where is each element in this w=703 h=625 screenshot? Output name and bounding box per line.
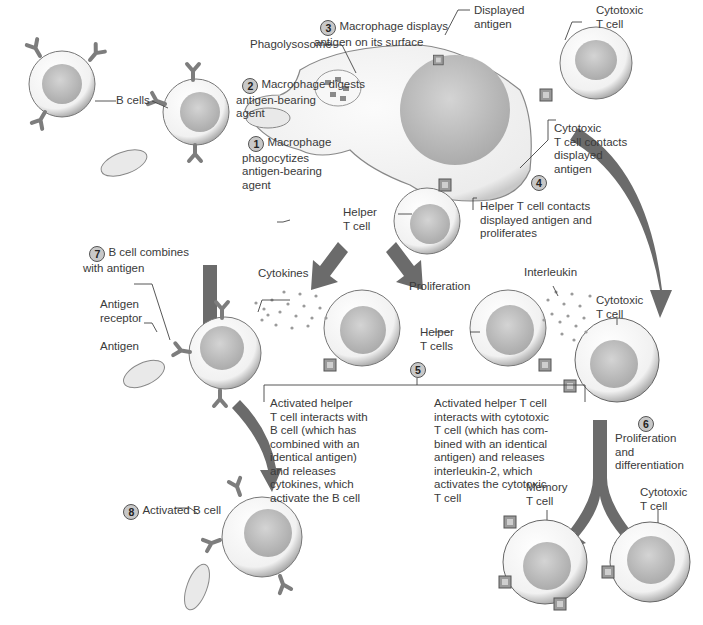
antigen-label: Antigen	[100, 340, 139, 354]
helper-t-cells-label: Helper T cells	[420, 326, 454, 353]
antigen-bound-activated	[179, 561, 214, 613]
step-badge-8: 8	[123, 504, 139, 520]
cytokine-dots	[254, 290, 327, 329]
phagolysosome-label: Phagolysosome	[250, 38, 332, 52]
cytotoxic-t-cell-mid-label: Cytotoxic T cell	[596, 294, 643, 321]
step-4-helper-label: Helper T cell contacts displayed antigen…	[480, 200, 592, 241]
antigen-agent-free	[98, 144, 151, 181]
helper-t-cell-label: Helper T cell	[343, 206, 377, 233]
step-badge-2: 2	[242, 78, 258, 94]
step-6-label: Proliferation and differentiation	[615, 432, 684, 473]
step-badge-7: 7	[89, 246, 105, 262]
cytokines-label: Cytokines	[258, 267, 309, 281]
b-cells-label: B cells	[116, 94, 150, 108]
antigen-receptor-label: Antigen receptor	[100, 298, 142, 325]
memory-t-cell-label: Memory T cell	[526, 481, 568, 508]
step-badge-5: 5	[410, 362, 426, 378]
proliferation-label: Proliferation	[409, 280, 470, 294]
step-5-b-cell-text: Activated helper T cell interacts with B…	[270, 397, 368, 505]
antigen	[119, 355, 168, 394]
step-badge-3: 3	[320, 20, 336, 36]
interleukin-label: Interleukin	[524, 266, 577, 280]
step-badge-1: 1	[248, 136, 264, 152]
step-1-label: 1Macrophage phagocytizes antigen-bearing…	[242, 122, 331, 192]
step-2-label: 2Macrophage digests antigen-bearing agen…	[236, 64, 365, 121]
step-8-label: 8Activated B cell	[117, 490, 221, 520]
step-3-label: 3Macrophage displays antigen on its surf…	[314, 6, 448, 49]
cytotoxic-t-cell-top-label: Cytotoxic T cell	[596, 4, 643, 31]
step-badge-6: 6	[638, 416, 654, 432]
step-badge-4: 4	[531, 175, 547, 191]
step-7-label: 7B cell combines with antigen	[83, 232, 189, 275]
step-4-cytotoxic-label: Cytotoxic T cell contacts displayed anti…	[554, 122, 627, 176]
arrow-proliferation-left	[311, 242, 348, 290]
immune-response-diagram: 3Macrophage displays antigen on its surf…	[0, 0, 703, 625]
cytotoxic-t-cell-bottom-label: Cytotoxic T cell	[640, 486, 687, 513]
displayed-antigen-label: Displayed antigen	[474, 4, 525, 31]
macrophage-nucleus	[400, 55, 510, 165]
